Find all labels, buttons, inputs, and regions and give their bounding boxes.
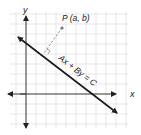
grid [10, 12, 128, 128]
line-ax-by-c [18, 37, 40, 54]
point-p-label: P (a, b) [62, 13, 90, 23]
point-p [60, 26, 63, 29]
right-angle-marker [47, 49, 50, 54]
coordinate-plane-diagram: y x P (a, b) Ax + By = C [0, 0, 141, 135]
y-axis-label: y [22, 5, 28, 15]
perpendicular-dashed [44, 28, 62, 53]
x-axis-label: x [129, 89, 135, 99]
